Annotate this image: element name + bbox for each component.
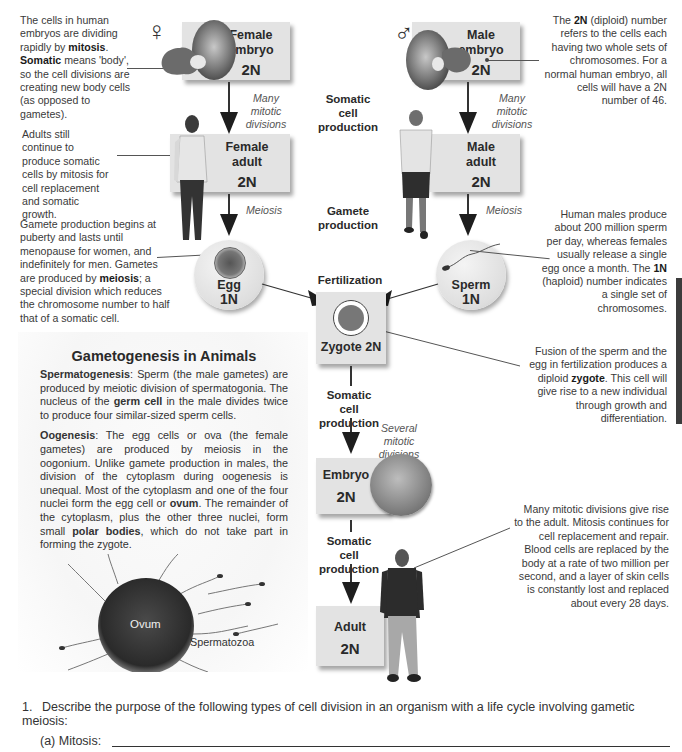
embryo-morula-image	[370, 454, 432, 516]
ovum-label: Ovum	[130, 618, 161, 630]
gametogenesis-panel: Gametogenesis in Animals Spermatogenesis…	[18, 332, 308, 672]
zygote-cell-image	[333, 300, 369, 336]
term-bold: ovum	[170, 497, 199, 509]
ovum-spermatozoa-image	[48, 554, 288, 672]
arrow-down-icon	[342, 582, 360, 604]
question-text: Describe the purpose of the following ty…	[22, 700, 635, 728]
ploidy-label: 2N	[316, 641, 384, 656]
term-bold: Spermatogenesis	[40, 368, 130, 380]
ploidy-label: 2N	[316, 489, 376, 504]
box-label: Adult	[334, 620, 366, 634]
arrow-shaft	[350, 564, 352, 584]
term-bold: Oogenesis	[40, 429, 95, 441]
box-label: Zygote 2N	[316, 340, 386, 355]
question-1: 1. Describe the purpose of the following…	[22, 700, 672, 728]
term-bold: germ cell	[114, 395, 163, 407]
stage-somatic-production-3: Somatic cell production	[316, 534, 382, 576]
spermatozoa-label: Spermatozoa	[190, 636, 254, 648]
gametogenesis-title: Gametogenesis in Animals	[40, 348, 288, 364]
answer-field-mitosis[interactable]	[112, 746, 670, 747]
box-label: Embryo	[323, 468, 370, 482]
zygote-box: Zygote 2N	[316, 292, 386, 364]
spermatogenesis-paragraph: Spermatogenesis: Sperm (the male gametes…	[40, 368, 288, 422]
adult-man-image	[378, 548, 430, 684]
arrow-down-icon	[342, 432, 360, 454]
arrow-shaft	[350, 520, 352, 532]
question-number: 1.	[22, 700, 32, 714]
arrow-shaft	[350, 366, 352, 386]
question-1a-label: (a) Mitosis:	[40, 734, 101, 748]
oogenesis-paragraph: Oogenesis: The egg cells or ova (the fem…	[40, 429, 288, 551]
adult-box: Adult 2N	[316, 606, 384, 666]
term-bold: polar bodies	[72, 525, 140, 537]
